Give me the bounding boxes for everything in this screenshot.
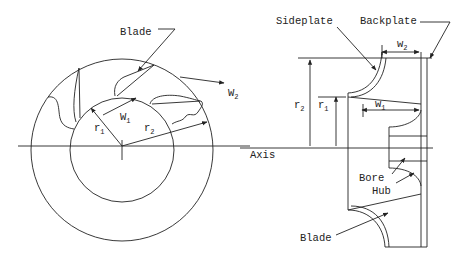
backplate-pointer [420,22,450,58]
r2-label: r2 [144,122,155,136]
w1-label: W1 [120,111,131,125]
front-view: Blade W2 W1 r1 r2 [18,26,250,241]
blade-right-line [152,101,201,104]
diagram-canvas: Blade W2 W1 r1 r2 [0,0,467,263]
w2-label: W2 [228,87,239,101]
axis-label: Axis [250,149,275,161]
blade-left-curve [74,68,79,122]
backplate-label: Backplate [360,15,417,27]
blade-curve-outer [348,210,385,247]
hub-curve-upper [389,110,421,127]
bore-pointer [392,158,405,174]
blade-top-line [117,65,154,96]
bore-label: Bore [359,172,384,184]
hub-curve-lower [389,168,421,186]
blade-label: Blade [120,26,152,38]
r1-dim-label: r1 [318,99,329,113]
r1-label: r1 [94,122,105,136]
impeller-diagram: Blade W2 W1 r1 r2 [0,0,467,263]
r2-dim-label: r2 [294,99,305,113]
w2-arrow [180,77,224,83]
w2-dim-label: w2 [397,38,408,52]
sideplate-curve-inner [351,58,386,97]
sideplate-label: Sideplate [276,15,333,27]
hub-label: Hub [372,185,391,197]
blade-left-line [79,68,80,118]
upper-slope [348,97,421,104]
blade-left-wavy [48,97,74,129]
sideplate-pointer [337,27,376,70]
hub-pointer [396,173,414,183]
blade-right-wavy [172,101,202,124]
cross-section-view: Sideplate Backplate w2 w1 r2 r1 Axis Bor… [240,15,450,247]
r2-arrow [122,122,207,146]
blade-section-label: Blade [300,232,332,244]
blade-pointer-section [336,213,388,235]
